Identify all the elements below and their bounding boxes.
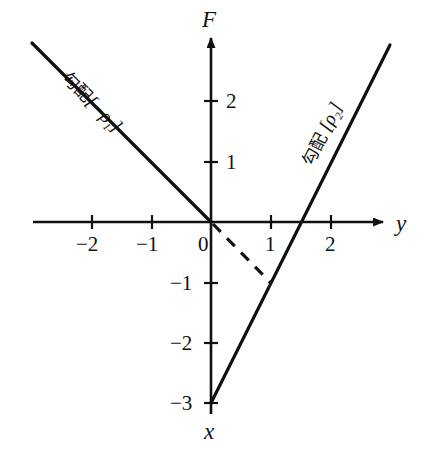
tick-label-y-pos1: 1 — [226, 152, 237, 173]
ascending-slope-line — [211, 45, 390, 403]
axis-label-y: y — [396, 212, 406, 235]
tick-label-x-neg1: −1 — [136, 234, 158, 255]
graph-figure: F y x 0 −2 −1 1 2 2 1 −1 −2 −3 勾配[−ρ1] 勾… — [0, 0, 432, 456]
tick-label-origin: 0 — [198, 234, 209, 255]
tick-label-x-pos1: 1 — [265, 234, 276, 255]
tick-label-y-pos2: 2 — [226, 91, 237, 112]
plot-canvas — [0, 0, 432, 456]
axis-label-x: x — [204, 420, 214, 443]
tick-label-y-neg3: −3 — [170, 393, 192, 414]
descending-slope-line — [32, 43, 211, 222]
axis-label-F: F — [202, 8, 216, 31]
tick-label-x-neg2: −2 — [76, 234, 98, 255]
tick-label-x-pos2: 2 — [325, 234, 336, 255]
dashed-construction-line — [213, 224, 271, 283]
tick-label-y-neg1: −1 — [170, 273, 192, 294]
tick-label-y-neg2: −2 — [170, 333, 192, 354]
